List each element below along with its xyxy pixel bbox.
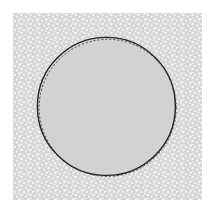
diagram-svg (0, 0, 213, 212)
diagram-canvas (0, 0, 213, 212)
